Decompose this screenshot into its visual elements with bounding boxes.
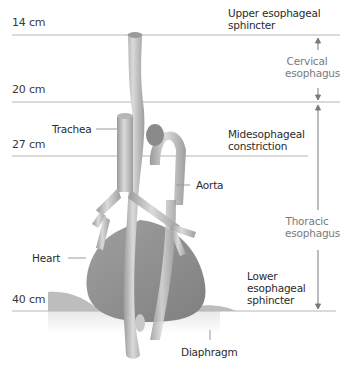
- marker-20cm: 20 cm: [12, 84, 45, 96]
- lower-sphincter-label: Lower esophageal sphincter: [247, 270, 306, 306]
- lower-sphincter-line3: sphincter: [247, 294, 306, 306]
- upper-sphincter-line2: sphincter: [228, 19, 321, 31]
- midesophageal-label: Midesophageal constriction: [228, 128, 305, 152]
- thoracic-line1: Thoracic: [285, 215, 329, 227]
- thoracic-esophagus-label: Thoracic esophagus: [285, 215, 329, 239]
- midesophageal-line2: constriction: [228, 140, 305, 152]
- aorta-label: Aorta: [196, 179, 223, 191]
- lower-sphincter-line1: Lower: [247, 270, 306, 282]
- upper-sphincter-label: Upper esophageal sphincter: [228, 7, 321, 31]
- trachea-label: Trachea: [52, 123, 92, 135]
- cervical-esophagus-label: Cervical esophagus: [285, 55, 329, 79]
- cervical-line2: esophagus: [285, 67, 329, 79]
- marker-27cm: 27 cm: [12, 139, 45, 151]
- heart-label: Heart: [32, 252, 60, 264]
- midesophageal-line1: Midesophageal: [228, 128, 305, 140]
- marker-14cm: 14 cm: [12, 17, 45, 29]
- upper-sphincter-line1: Upper esophageal: [228, 7, 321, 19]
- cervical-line1: Cervical: [285, 55, 329, 67]
- thoracic-line2: esophagus: [285, 227, 329, 239]
- diaphragm-label: Diaphragm: [181, 346, 238, 358]
- lower-sphincter-line2: esophageal: [247, 282, 306, 294]
- marker-40cm: 40 cm: [12, 294, 45, 306]
